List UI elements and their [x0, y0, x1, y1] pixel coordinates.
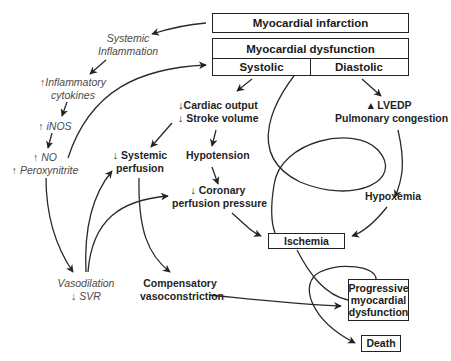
node-systemic-perfusion: ↓ Systemic perfusion — [112, 149, 168, 175]
label-line: ↓Cardiac output — [178, 99, 258, 112]
label-line: dysfunction — [349, 306, 409, 318]
label-line: vasoconstriction — [140, 290, 220, 303]
label-line: myocardial — [351, 294, 406, 306]
dysfunction-title: Myocardial dysfunction — [213, 39, 408, 59]
node-cardiac-output: ↓Cardiac output ↓ Stroke volume — [178, 99, 258, 125]
label-line: Hypoxemia — [363, 190, 423, 203]
label-line: ↓ Stroke volume — [178, 112, 258, 125]
node-coronary-perfusion: ↓ Coronary perfusion pressure — [172, 184, 264, 210]
node-diastolic: Diastolic — [310, 58, 408, 75]
label-line: Compensatory — [140, 277, 220, 290]
node-hypotension: Hypotension — [186, 149, 244, 162]
label-line: ↓ SVR — [55, 290, 117, 303]
node-death: Death — [361, 335, 401, 352]
node-ischemia: Ischemia — [268, 233, 345, 249]
label-line: ↑Inflammatory — [36, 76, 110, 89]
label-line: Pulmonary congestion — [335, 112, 445, 125]
node-compensatory-vasoconstriction: Compensatory vasoconstriction — [140, 277, 220, 303]
node-systemic-inflammation: Systemic Inflammation — [98, 32, 158, 58]
label-line: Progressive — [348, 282, 408, 294]
node-no-peroxynitrite: ↑ NO ↑ Peroxynitrite — [8, 151, 82, 177]
label-line: perfusion pressure — [172, 197, 264, 210]
arrow-mi-to-inflammation — [152, 23, 206, 34]
label-line: ↑ Peroxynitrite — [8, 164, 82, 177]
node-label: Ischemia — [284, 235, 329, 248]
label-line: cytokines — [36, 89, 110, 102]
node-hypoxemia: Hypoxemia — [363, 190, 423, 203]
label-line: Inflammation — [98, 45, 158, 58]
node-systolic: Systolic — [213, 58, 311, 75]
node-progressive-dysfunction: Progressive myocardial dysfunction — [348, 279, 409, 321]
node-lvedp: ▴ LVEDP Pulmonary congestion — [335, 99, 445, 125]
label-line: ↓ Coronary — [172, 184, 264, 197]
node-label: Death — [366, 337, 395, 350]
label-line: ▴ LVEDP — [335, 99, 445, 112]
node-label: Myocardial infarction — [253, 17, 369, 30]
label-line: Vasodilation — [55, 277, 117, 290]
label-line: Hypotension — [186, 149, 244, 162]
label-line: ↑ NO — [8, 151, 82, 164]
label-line: Systemic — [98, 32, 158, 45]
node-myocardial-dysfunction: Myocardial dysfunction Systolic Diastoli… — [212, 38, 409, 76]
node-inflammatory-cytokines: ↑Inflammatory cytokines — [36, 76, 110, 102]
node-myocardial-infarction: Myocardial infarction — [212, 13, 409, 33]
label-line: perfusion — [112, 162, 168, 175]
diagram-canvas: Myocardial infarction Myocardial dysfunc… — [0, 0, 451, 361]
label-line: ↑ iNOS — [35, 120, 75, 133]
node-inos: ↑ iNOS — [35, 120, 75, 133]
label-line: ↓ Systemic — [112, 149, 168, 162]
node-vasodilation-svr: Vasodilation ↓ SVR — [55, 277, 117, 303]
